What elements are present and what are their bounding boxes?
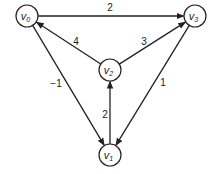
- edge-weight-label: 1: [160, 77, 166, 88]
- edge-weight-label: 4: [73, 36, 79, 47]
- edge-weight-label: 2: [107, 2, 113, 13]
- edge-weight-label: 2: [102, 109, 108, 120]
- graph-diagram: 243−121 v0v1v2v3: [0, 0, 221, 174]
- node-v3: v3: [184, 5, 206, 27]
- node-v1: v1: [99, 144, 121, 166]
- edge-v2-v3: [119, 22, 185, 64]
- node-v0: v0: [16, 5, 38, 27]
- edge-weight-label: −1: [50, 78, 62, 89]
- nodes-group: v0v1v2v3: [16, 5, 206, 166]
- edge-v2-v0: [37, 22, 101, 64]
- edge-weight-label: 3: [141, 36, 147, 47]
- node-v2: v2: [99, 59, 121, 81]
